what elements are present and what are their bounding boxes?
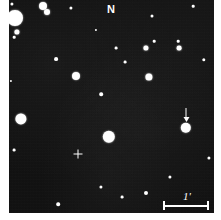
star-point [207, 156, 210, 159]
star-point [151, 15, 154, 18]
star-point [202, 58, 205, 61]
star-point [95, 29, 97, 31]
scale-bar-left-cap [163, 201, 165, 210]
star-point [10, 80, 12, 82]
star-point [13, 149, 16, 152]
cross-vertical-bar [78, 150, 79, 159]
star-point [44, 9, 50, 15]
scale-bar-right-cap [207, 201, 209, 210]
star-point [72, 72, 80, 80]
star-point [103, 131, 115, 143]
scale-bar-label: 1' [183, 191, 191, 202]
star-point [10, 2, 13, 5]
star-point [54, 57, 58, 61]
star-point [99, 92, 103, 96]
star-point [99, 185, 102, 188]
star-point [14, 29, 19, 34]
star-point [124, 61, 127, 64]
scale-bar [163, 201, 209, 210]
north-direction-label: N [107, 4, 115, 15]
star-point [177, 40, 180, 43]
star-point [144, 191, 148, 195]
field-center-cross-marker [74, 150, 83, 159]
star-point [9, 10, 23, 26]
target-object-arrow-icon [182, 108, 191, 122]
star-point [168, 175, 171, 178]
star-point [56, 202, 60, 206]
star-point [115, 47, 118, 50]
star-point [143, 45, 148, 50]
star-point [153, 40, 156, 43]
star-point [192, 5, 195, 8]
scale-bar-line [163, 205, 209, 207]
star-point [69, 6, 72, 9]
star-point [145, 73, 152, 80]
star-point [15, 113, 26, 124]
finding-chart: N 1' [0, 0, 221, 220]
arrow-head [183, 117, 189, 122]
sky-field-image: N 1' [9, 0, 214, 213]
star-point [121, 196, 124, 199]
photographic-grain [9, 0, 214, 213]
star-point [181, 123, 191, 133]
star-point [13, 36, 16, 39]
star-point [177, 46, 182, 51]
